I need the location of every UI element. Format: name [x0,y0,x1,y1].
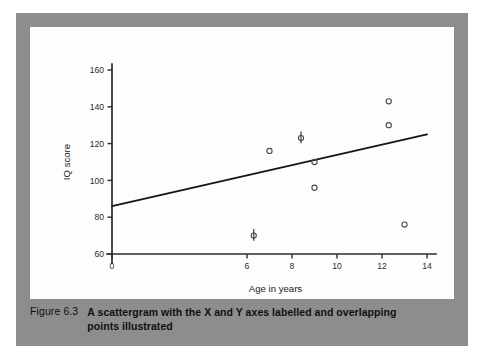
regression-line [112,134,427,206]
x-axis-title: Age in years [249,283,303,294]
figure-page: 6080100120140160068101214Age in yearsIQ … [0,0,484,357]
point-circle [386,99,391,104]
point-circle [402,222,407,227]
x-axis-tick-label: 6 [245,261,250,271]
x-axis-tick-label: 10 [332,261,342,271]
point-circle [267,148,272,153]
data-point-marker [386,99,391,104]
x-axis-tick-label: 8 [290,261,295,271]
data-point-marker [312,185,317,190]
data-point-marker [267,148,272,153]
y-axis-tick-label: 160 [90,65,105,75]
overlapping-point-marker [251,229,256,241]
data-point-marker [402,222,407,227]
y-axis-title: IQ score [61,144,72,180]
x-axis-tick-label: 14 [422,261,432,271]
data-point-marker [386,123,391,128]
overlapping-point-marker [298,132,303,144]
figure-caption: Figure 6.3 A scattergram with the X and … [30,305,454,341]
y-axis-tick-label: 140 [90,102,105,112]
x-axis-tick-label: 12 [377,261,387,271]
y-axis-tick-label: 60 [94,249,104,259]
chart-panel: 6080100120140160068101214Age in yearsIQ … [30,27,454,299]
point-circle [386,123,391,128]
x-axis-tick-label: 0 [110,261,115,271]
y-axis-tick-label: 120 [90,139,105,149]
point-circle [312,185,317,190]
figure-gray-frame: 6080100120140160068101214Age in yearsIQ … [16,13,468,346]
scattergram-svg: 6080100120140160068101214Age in yearsIQ … [30,27,454,299]
y-axis-tick-label: 100 [90,176,105,186]
figure-caption-text: A scattergram with the X and Y axes labe… [87,305,417,333]
y-axis-tick-label: 80 [94,212,104,222]
figure-caption-label: Figure 6.3 [30,305,78,317]
